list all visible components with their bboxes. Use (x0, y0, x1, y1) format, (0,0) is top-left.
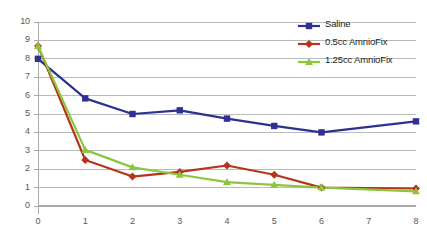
data-point-0-3 (177, 107, 183, 113)
line-chart: 012345678910 012345678 Saline0.5cc Amnio… (0, 0, 427, 239)
x-tick-label: 0 (28, 216, 48, 226)
y-tick-label: 1 (10, 182, 30, 192)
x-tick-label: 4 (217, 216, 237, 226)
data-point-0-0 (35, 56, 41, 62)
data-point-1-1 (81, 156, 89, 164)
y-tick-label: 0 (10, 200, 30, 210)
data-point-0-5 (271, 123, 277, 129)
y-tick-label: 6 (10, 90, 30, 100)
data-point-1-5 (270, 171, 278, 179)
data-point-1-4 (223, 162, 231, 170)
legend-marker-icon (298, 18, 320, 30)
legend: Saline0.5cc AmnioFix1.25cc AmnioFix (298, 15, 424, 69)
data-point-0-6 (318, 129, 324, 135)
y-tick-label: 9 (10, 34, 30, 44)
x-tick-label: 6 (312, 216, 332, 226)
data-point-0-4 (224, 115, 230, 121)
y-tick-label: 10 (10, 16, 30, 26)
x-tick-label: 8 (406, 216, 426, 226)
legend-marker-shape (306, 22, 312, 28)
legend-label: 0.5cc AmnioFix (325, 36, 387, 47)
y-tick-label: 7 (10, 71, 30, 81)
axis-lines (34, 22, 38, 214)
data-point-0-1 (82, 95, 88, 101)
y-tick-label: 3 (10, 145, 30, 155)
y-tick-label: 4 (10, 126, 30, 136)
x-tick-label: 5 (264, 216, 284, 226)
x-tick-label: 7 (359, 216, 379, 226)
legend-label: 1.25cc AmnioFix (325, 54, 392, 65)
data-point-1-2 (129, 173, 137, 181)
data-point-0-2 (129, 111, 135, 117)
legend-marker-shape (305, 40, 313, 48)
data-point-0-7 (413, 118, 419, 124)
data-point-2-1 (81, 146, 89, 153)
x-tick-label: 1 (75, 216, 95, 226)
legend-item-0: Saline (298, 15, 424, 32)
y-tick-label: 2 (10, 163, 30, 173)
legend-item-1: 0.5cc AmnioFix (298, 33, 424, 50)
x-tick-label: 2 (123, 216, 143, 226)
legend-label: Saline (325, 18, 351, 29)
legend-marker-icon (298, 36, 320, 48)
y-tick-label: 8 (10, 53, 30, 63)
legend-item-2: 1.25cc AmnioFix (298, 51, 424, 68)
y-tick-label: 5 (10, 108, 30, 118)
legend-marker-icon (298, 54, 320, 66)
x-tick-label: 3 (170, 216, 190, 226)
